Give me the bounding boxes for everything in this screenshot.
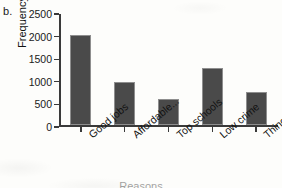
y-tick-mark — [54, 126, 59, 127]
y-tick-label: 500 — [34, 98, 52, 110]
x-tick-mark — [80, 127, 81, 132]
y-tick-mark — [54, 13, 59, 14]
y-tick-mark — [54, 81, 59, 82]
x-tick-mark — [212, 127, 213, 132]
y-axis-line — [59, 14, 61, 127]
y-tick-label: 2500 — [29, 8, 52, 20]
y-axis-title-text: Frequency — [16, 0, 28, 48]
y-tick-label: 1500 — [29, 53, 52, 65]
y-tick-mark — [54, 104, 59, 105]
x-tick-mark — [124, 127, 125, 132]
figure-panel: b. Frequency 05001000150020002500 Good j… — [0, 0, 282, 188]
x-tick-mark — [255, 127, 256, 132]
y-tick-mark — [54, 36, 59, 37]
y-tick-label: 2000 — [29, 31, 52, 43]
y-tick-mark — [54, 59, 59, 60]
panel-label: b. — [3, 5, 13, 17]
x-axis-title: Reasons — [0, 180, 282, 188]
y-tick-label: 0 — [46, 121, 52, 133]
y-tick-label: 1000 — [29, 76, 52, 88]
bar[interactable] — [70, 35, 91, 125]
x-tick-mark — [168, 127, 169, 132]
